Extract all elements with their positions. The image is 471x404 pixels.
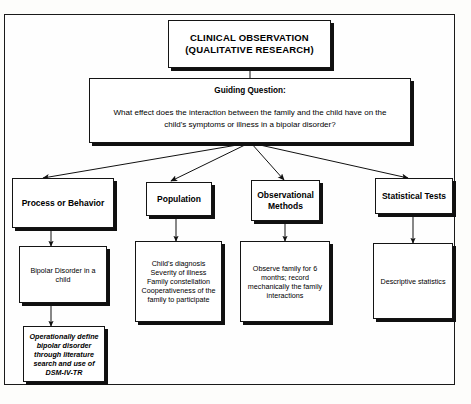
column-header-process-or-behavior: Process or Behavior (12, 178, 114, 228)
column-header-label: Statistical Tests (376, 191, 452, 202)
column-detail-label: Bipolar Disorder in a child (20, 266, 106, 284)
column-detail-label: Child's diagnosis Severity of illness Fa… (136, 259, 221, 304)
column-detail-statistical-tests: Descriptive statistics (373, 243, 453, 319)
guiding-question-heading: Guiding Question: (214, 86, 285, 96)
column-detail-label: Observe family for 6 months; record mech… (241, 264, 329, 300)
title-box-label: CLINICAL OBSERVATION (QUALITATIVE RESEAR… (169, 32, 330, 56)
guiding-question-text: What effect does the interaction between… (100, 107, 401, 130)
column-detail-label: Descriptive statistics (374, 277, 452, 286)
column-header-observational-methods: Observational Methods (251, 180, 320, 221)
column-detail-observational-methods: Observe family for 6 months; record mech… (240, 241, 330, 322)
column-header-label: Observational Methods (252, 190, 319, 211)
diagram-canvas: CLINICAL OBSERVATION (QUALITATIVE RESEAR… (0, 0, 471, 404)
column-header-statistical-tests: Statistical Tests (375, 178, 453, 214)
guiding-question-box: Guiding Question: What effect does the i… (89, 78, 411, 143)
column-header-population: Population (146, 182, 212, 216)
column-header-label: Process or Behavior (13, 198, 113, 209)
column-extra-process-or-behavior: Operationally define bipolar disorder th… (23, 326, 105, 382)
column-detail-population: Child's diagnosis Severity of illness Fa… (135, 241, 222, 322)
column-header-label: Population (147, 194, 211, 205)
title-box: CLINICAL OBSERVATION (QUALITATIVE RESEAR… (168, 20, 331, 68)
column-extra-label: Operationally define bipolar disorder th… (24, 332, 104, 377)
column-detail-process-or-behavior: Bipolar Disorder in a child (19, 246, 107, 303)
